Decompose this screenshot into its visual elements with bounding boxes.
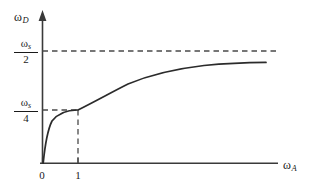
y-tick-label-omega-s-over-2: ωs 2 — [13, 38, 39, 65]
data-curve — [43, 62, 266, 163]
x-axis-label-subscript: A — [291, 163, 297, 173]
y-tick-denominator: 4 — [13, 112, 39, 124]
y-tick-numerator: ωs — [13, 38, 39, 52]
x-tick-label-0: 0 — [36, 170, 48, 181]
y-axis-label-subscript: D — [22, 15, 29, 25]
x-tick-label-1: 1 — [72, 170, 84, 181]
plot-canvas — [0, 0, 313, 192]
x-axis-label: ωA — [283, 159, 297, 173]
y-axis-arrowhead — [39, 10, 47, 21]
y-tick-numerator-base: ω — [21, 96, 28, 108]
x-axis — [40, 158, 278, 164]
x-axis-label-base: ω — [283, 158, 291, 172]
y-axis-label: ωD — [14, 11, 29, 25]
y-tick-denominator: 2 — [13, 53, 39, 65]
y-tick-numerator: ωs — [13, 97, 39, 111]
y-tick-numerator-subscript: s — [28, 101, 31, 110]
y-axis — [39, 10, 47, 164]
y-tick-numerator-subscript: s — [28, 42, 31, 51]
y-tick-numerator-base: ω — [21, 37, 28, 49]
y-tick-label-omega-s-over-4: ωs 4 — [13, 97, 39, 124]
figure-root: ωD ωA ωs 2 ωs 4 0 1 — [0, 0, 313, 192]
y-axis-label-base: ω — [14, 10, 22, 24]
